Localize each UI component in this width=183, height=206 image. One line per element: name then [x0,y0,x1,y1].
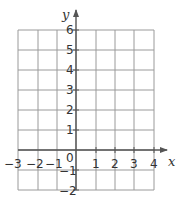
x-tick-label-4: 4 [150,157,158,171]
y-tick-label-5: 5 [66,43,74,57]
x-tick-label-3: 3 [130,157,138,171]
x-tick-label-1: 1 [92,157,100,171]
coordinate-plane: x y 0 −3 −2 −1 1 2 3 4 6 5 4 3 2 1 −1 −2 [0,0,183,206]
x-tick-label-2: 2 [111,157,119,171]
y-tick-label-neg2: −2 [59,184,77,198]
x-tick-label-neg2: −2 [26,157,44,171]
y-tick-label-2: 2 [66,103,74,117]
y-tick-label-neg1: −1 [59,164,77,178]
origin-label: 0 [66,151,74,165]
x-tick-label-neg3: −3 [4,157,22,171]
y-tick-label-3: 3 [66,83,74,97]
y-tick-label-4: 4 [66,63,74,77]
y-tick-label-1: 1 [66,123,74,137]
y-axis-label: y [61,7,70,22]
x-axis-label: x [168,154,176,169]
y-tick-label-6: 6 [66,23,74,37]
